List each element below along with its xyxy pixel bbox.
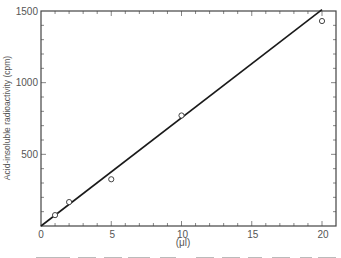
chart-figure: 0510152050010001500 Acid-insoluble radio… <box>0 0 341 258</box>
data-point <box>52 213 57 218</box>
data-point <box>67 199 72 204</box>
y-tick-label: 1500 <box>16 6 39 17</box>
x-tick-label: 20 <box>317 229 329 240</box>
y-tick-label: 500 <box>21 149 38 160</box>
y-axis-label: Acid-insoluble radioactivity (cpm) <box>2 56 12 180</box>
x-tick-label: 0 <box>38 229 44 240</box>
data-points <box>52 18 324 217</box>
data-point <box>109 177 114 182</box>
plot-frame <box>41 11 336 226</box>
minor-ticks <box>41 11 336 226</box>
x-tick-label: 15 <box>247 229 259 240</box>
x-tick-label: 5 <box>109 229 115 240</box>
x-axis-label: (μl) <box>176 237 191 248</box>
data-point <box>319 18 324 23</box>
y-tick-label: 1000 <box>16 77 39 88</box>
data-point <box>179 113 184 118</box>
